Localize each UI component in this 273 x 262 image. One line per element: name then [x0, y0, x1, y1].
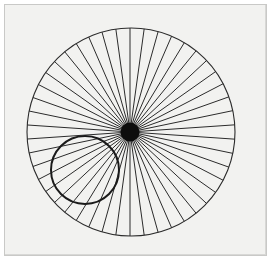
- figure-root: [0, 0, 273, 262]
- spoke-line: [130, 43, 184, 132]
- spoke-line: [130, 132, 223, 180]
- spoke-line: [102, 32, 130, 132]
- rolling-circle: [51, 136, 119, 204]
- spoke-line: [130, 32, 158, 132]
- spoke-line: [130, 132, 158, 232]
- hub-dot: [121, 123, 140, 142]
- spoke-line: [130, 132, 184, 221]
- spoke-line: [55, 62, 130, 132]
- spoke-line: [130, 84, 223, 132]
- spoke-line: [38, 85, 130, 132]
- spoke-line: [76, 132, 130, 220]
- spoke-line: [130, 61, 207, 132]
- spoke-diagram: [0, 0, 273, 262]
- spoke-line: [76, 44, 130, 132]
- spoke-line: [130, 132, 207, 203]
